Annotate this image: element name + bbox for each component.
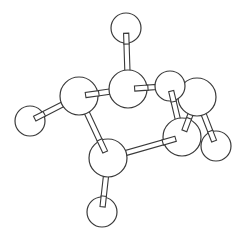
bond-stick bbox=[124, 41, 130, 72]
bond-stick bbox=[84, 110, 103, 143]
molecule-svg bbox=[0, 0, 243, 242]
atom-ball bbox=[89, 139, 127, 177]
atom-ball bbox=[163, 118, 201, 156]
bond-stub bbox=[134, 85, 148, 91]
atom-ball bbox=[201, 131, 231, 161]
atoms-group bbox=[15, 13, 231, 227]
bond-stub bbox=[85, 91, 99, 98]
molecule-diagram bbox=[0, 0, 243, 242]
atom-ball bbox=[15, 106, 45, 136]
bond-stub bbox=[100, 196, 106, 207]
bond-stick bbox=[124, 139, 167, 156]
bond-stub bbox=[124, 33, 130, 44]
